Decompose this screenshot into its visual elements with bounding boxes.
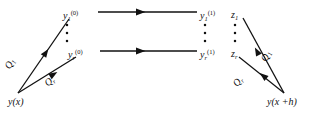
node-label-source: y(x) xyxy=(8,97,24,107)
stage-right-first-sub: 1 xyxy=(204,15,207,22)
stage-right-last-sup: (1) xyxy=(207,48,215,55)
stage-right-last-sub: r xyxy=(204,54,207,61)
node-label-z-last: zr xyxy=(231,49,237,61)
edge-horizontal-top xyxy=(98,8,197,15)
ellipsis-z-column xyxy=(234,24,237,43)
edge-target-to-z-last xyxy=(239,57,284,93)
z-last-sub: r xyxy=(235,53,238,60)
node-label-stage-right-first: y1(1) xyxy=(200,10,215,23)
ellipsis-right-column xyxy=(204,24,207,43)
edge-horizontal-bottom xyxy=(100,47,197,54)
node-label-stage-left-first: y1(0) xyxy=(63,10,78,23)
node-label-target: y(x +h) xyxy=(267,97,297,107)
stage-left-last-sub: r xyxy=(72,54,75,61)
node-label-stage-left-last: yr(0) xyxy=(68,49,83,62)
stage-left-first-sub: 1 xyxy=(67,15,70,22)
stage-left-first-sup: (0) xyxy=(71,9,79,16)
commutative-diagram-figure: y(x) y(x +h) y1(0) yr(0) y1(1) yr(1) z1 … xyxy=(0,0,328,113)
stage-right-first-sup: (1) xyxy=(208,9,216,16)
z-first-sub: 1 xyxy=(235,14,238,21)
node-label-z-first: z1 xyxy=(231,10,238,22)
stage-left-last-sup: (0) xyxy=(75,48,83,55)
node-label-stage-right-last: yr(1) xyxy=(200,49,215,62)
ellipsis-left-column xyxy=(66,24,69,43)
